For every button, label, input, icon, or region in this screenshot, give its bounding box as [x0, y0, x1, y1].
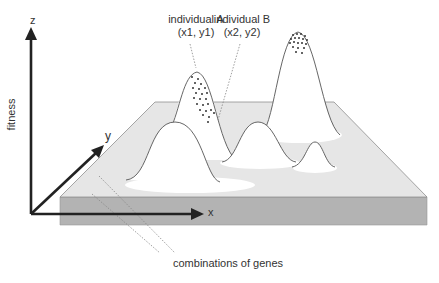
individual-b-coords: (x2, y2) [206, 26, 278, 39]
individual-b-label: individual B (x2, y2) [206, 13, 278, 39]
fitness-landscape-diagram [0, 0, 439, 283]
y-axis-label: y [105, 130, 111, 143]
combinations-of-genes-label: combinations of genes [173, 257, 283, 270]
peak-tall-right [262, 32, 340, 135]
x-axis-label: x [208, 206, 214, 219]
individual-b-name: individual B [206, 13, 278, 26]
fitness-axis-label: fitness [5, 99, 18, 131]
z-axis-label: z [30, 14, 36, 27]
slab-front-face [60, 197, 427, 225]
